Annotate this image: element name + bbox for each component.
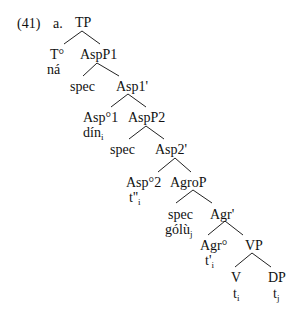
tree-node-tp: TP bbox=[75, 16, 91, 30]
node-index-subscript: i bbox=[211, 260, 214, 270]
branch-asp1bar-aspp2 bbox=[128, 94, 146, 107]
node-index-subscript: j bbox=[190, 229, 193, 239]
tree-node-aspp2: AspP2 bbox=[128, 111, 165, 125]
node-label: T° bbox=[50, 47, 64, 62]
node-label: VP bbox=[245, 238, 263, 253]
branch-agrbar-agr0 bbox=[208, 221, 225, 235]
node-label: Agr' bbox=[210, 207, 234, 222]
tree-node-spec3: spec bbox=[168, 208, 193, 222]
node-label: Asp1' bbox=[116, 79, 148, 94]
node-index-subscript: i bbox=[101, 132, 104, 142]
node-label: spec bbox=[110, 142, 135, 157]
node-label: Agr° bbox=[200, 238, 227, 253]
node-label: ná bbox=[47, 62, 60, 77]
node-index-subscript: i bbox=[138, 197, 141, 207]
example-number: (41) bbox=[17, 17, 40, 31]
node-label: AgroP bbox=[170, 175, 207, 190]
node-label: gólù bbox=[165, 222, 190, 237]
example-letter: a. bbox=[53, 17, 63, 31]
node-label: Asp2' bbox=[155, 142, 187, 157]
branch-agrop-spec3 bbox=[176, 190, 193, 203]
branch-vp-dp bbox=[252, 253, 271, 267]
branch-agrbar-vp bbox=[225, 221, 243, 235]
tree-node-v-trace: ti bbox=[233, 287, 239, 305]
branch-vp-v bbox=[235, 253, 252, 267]
node-label: TP bbox=[75, 15, 91, 30]
tree-node-t0-lex: ná bbox=[47, 63, 60, 77]
branch-tp-aspp1 bbox=[82, 31, 100, 44]
tree-node-agr0: Agr° bbox=[200, 239, 227, 253]
branch-aspp1-asp1bar bbox=[97, 63, 119, 76]
node-label: Asp°1 bbox=[83, 110, 118, 125]
tree-node-aspp1: AspP1 bbox=[80, 48, 117, 62]
node-label: AspP2 bbox=[128, 110, 165, 125]
node-label: dín bbox=[83, 125, 101, 140]
tree-node-spec3-lex: gólùj bbox=[165, 223, 192, 241]
node-label: AspP1 bbox=[80, 47, 117, 62]
tree-node-asp1bar: Asp1' bbox=[116, 80, 148, 94]
tree-branches bbox=[0, 0, 301, 323]
node-label: t'' bbox=[129, 190, 138, 205]
node-index-subscript: i bbox=[237, 293, 240, 303]
tree-node-spec1: spec bbox=[70, 80, 95, 94]
tree-node-vp: VP bbox=[245, 239, 263, 253]
tree-node-v: V bbox=[231, 271, 241, 285]
branch-asp1bar-asp01 bbox=[111, 94, 128, 107]
tree-node-asp02: Asp°2 bbox=[126, 176, 161, 190]
node-label: spec bbox=[70, 79, 95, 94]
node-label: DP bbox=[268, 270, 286, 285]
branch-agrop-agrbar bbox=[193, 190, 212, 203]
branch-aspp2-asp2bar bbox=[146, 126, 164, 139]
branch-aspp1-spec1 bbox=[83, 63, 97, 76]
branch-tp-t0 bbox=[64, 31, 82, 44]
tree-node-asp01: Asp°1 bbox=[83, 111, 118, 125]
node-label: V bbox=[231, 270, 241, 285]
branch-asp2bar-agrop bbox=[175, 158, 191, 172]
tree-node-asp2bar: Asp2' bbox=[155, 143, 187, 157]
tree-node-spec2: spec bbox=[110, 143, 135, 157]
node-index-subscript: j bbox=[277, 293, 280, 303]
tree-node-agrop: AgroP bbox=[170, 176, 207, 190]
node-label: spec bbox=[168, 207, 193, 222]
node-label: Asp°2 bbox=[126, 175, 161, 190]
tree-node-asp01-lex: díni bbox=[83, 126, 103, 144]
tree-node-agrbar: Agr' bbox=[210, 208, 234, 222]
tree-node-agr0-trace: t'i bbox=[205, 254, 214, 272]
tree-node-dp: DP bbox=[268, 271, 286, 285]
branch-asp2bar-asp02 bbox=[158, 158, 175, 172]
tree-node-t0: T° bbox=[50, 48, 64, 62]
tree-node-asp02-trace: t''i bbox=[129, 191, 140, 209]
branch-aspp2-spec2 bbox=[129, 126, 146, 139]
tree-node-dp-trace: tj bbox=[273, 287, 279, 305]
